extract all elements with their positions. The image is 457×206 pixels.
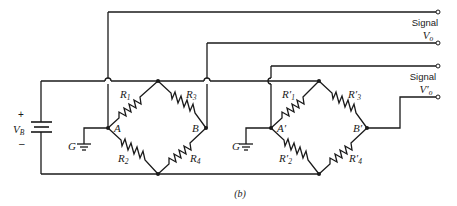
- top-rail: [41, 78, 319, 81]
- node-b-label: B: [192, 122, 199, 134]
- bridge-2: [239, 66, 436, 176]
- ground-label-2: G: [232, 140, 240, 152]
- battery-plus-label: +: [18, 109, 24, 120]
- battery-voltage-label: VB: [13, 123, 25, 137]
- resistor-r2: [108, 128, 158, 174]
- resistor-r3: [158, 81, 206, 128]
- signal-vo-label: Vo: [423, 29, 434, 43]
- resistor-r2-label: R2: [117, 152, 129, 166]
- resistor-r3-prime-label: R′3: [347, 88, 361, 102]
- node-a-prime-label: A′: [276, 122, 287, 134]
- resistor-r1-prime-label: R′1: [281, 88, 295, 102]
- node-bottom-1: [156, 172, 160, 176]
- resistor-r4-label: R4: [189, 152, 201, 166]
- resistor-r3-prime: [319, 81, 367, 128]
- resistor-r1-label: R1: [119, 88, 130, 102]
- node-a-label: A: [113, 122, 121, 134]
- battery: [31, 81, 52, 174]
- signal-vo-prime-label: V′o: [420, 83, 433, 97]
- resistor-r2-prime-label: R′2: [278, 152, 292, 166]
- terminal-vo-minus[interactable]: [436, 41, 440, 45]
- signal-vo-prime-title: Signal: [410, 71, 436, 82]
- ground-label-1: G: [68, 140, 76, 152]
- node-top-2: [317, 79, 321, 83]
- resistor-r2-prime: [271, 128, 319, 174]
- battery-minus-label: –: [19, 138, 25, 149]
- resistor-r4-prime: [319, 128, 367, 174]
- terminal-vo-plus[interactable]: [436, 10, 440, 14]
- signal-vo-wires: [108, 10, 440, 128]
- node-bottom-2: [317, 172, 321, 176]
- resistor-r1-prime: [271, 81, 319, 128]
- resistor-r4: [158, 128, 206, 174]
- resistor-r3-label: R3: [185, 88, 197, 102]
- signal-vo-title: Signal: [412, 17, 438, 28]
- circuit-diagram: + – VB Signal Vo: [0, 0, 457, 206]
- resistor-r1: [108, 81, 158, 128]
- node-b: [204, 126, 208, 130]
- terminal-vo-prime-minus[interactable]: [436, 95, 440, 99]
- node-top-1: [156, 79, 160, 83]
- node-b-prime-label: B′: [353, 122, 363, 134]
- terminal-vo-prime-plus[interactable]: [436, 64, 440, 68]
- figure-caption: (b): [234, 188, 246, 200]
- resistor-r4-prime-label: R′4: [348, 152, 362, 166]
